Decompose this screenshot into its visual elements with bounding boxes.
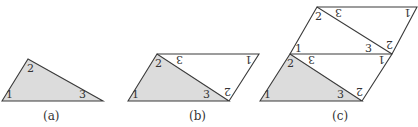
upper-label-1: 1 [295, 42, 302, 55]
upper-label-3: 3 [365, 42, 372, 55]
panel-b: 1 2 3 3 1 2 (b) [128, 53, 259, 123]
caption-a: (a) [43, 109, 60, 123]
triangle-tiling-diagram: 1 2 3 (a) 1 2 3 3 1 2 (b) 1 2 3 3 1 2 1 … [0, 0, 418, 127]
upper-rotated-label-3: 3 [335, 6, 342, 19]
panel-a: 1 2 3 (a) [2, 59, 103, 123]
vertex-label-1: 1 [132, 88, 139, 101]
rotated-label-2: 2 [356, 85, 363, 98]
upper-rotated-label-2: 2 [386, 38, 393, 51]
rotated-label-3: 3 [308, 53, 315, 66]
upper-label-2: 2 [315, 10, 322, 23]
caption-b: (b) [189, 109, 206, 123]
upper-rotated-label-1: 1 [404, 6, 411, 19]
rotated-label-1: 1 [378, 53, 385, 66]
rotated-label-3: 3 [176, 53, 183, 66]
vertex-label-1: 1 [264, 88, 271, 101]
shaded-triangle-a [2, 59, 103, 101]
vertex-label-3: 3 [203, 88, 210, 101]
vertex-label-2: 2 [287, 57, 294, 70]
rotated-label-2: 2 [224, 85, 231, 98]
vertex-label-3: 3 [337, 88, 344, 101]
vertex-label-1: 1 [6, 88, 13, 101]
caption-c: (c) [332, 109, 348, 123]
rotated-label-1: 1 [245, 53, 252, 66]
vertex-label-2: 2 [27, 62, 34, 75]
panel-c: 1 2 3 3 1 2 1 3 2 3 1 2 (c) [260, 6, 417, 123]
vertex-label-2: 2 [155, 57, 162, 70]
vertex-label-3: 3 [79, 88, 86, 101]
